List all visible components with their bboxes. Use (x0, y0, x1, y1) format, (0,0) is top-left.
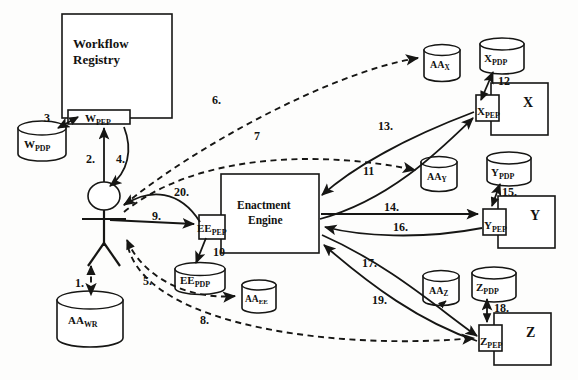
label-workflow-registry-line1: Workflow (73, 36, 129, 51)
step-label-1: 1. (75, 276, 84, 290)
step-label-2: 2. (86, 152, 95, 166)
step-label-20: 20. (174, 185, 189, 199)
step-label-7: 7 (254, 129, 260, 143)
step-label-9: 9. (152, 209, 161, 223)
step-label-12: 12 (498, 74, 510, 88)
label-enactment-engine-line2: Engine (248, 214, 283, 227)
step-label-19: 19. (372, 293, 387, 307)
node-user-actor (82, 182, 126, 266)
label-workflow-registry-line2: Registry (73, 52, 120, 67)
step-label-3: 3 (44, 111, 50, 125)
step-label-4: 4. (116, 152, 125, 166)
step-label-18: 18. (494, 301, 509, 315)
label-enactment-engine-line1: Enactment (237, 199, 291, 211)
step-label-6: 6. (212, 93, 221, 107)
label-service-x: X (523, 95, 533, 110)
step-label-17: 17. (362, 256, 377, 270)
step-label-16: 16. (393, 220, 408, 234)
step-label-10: 10 (213, 245, 225, 259)
edge-10-ee-pep-to-ee-pdp (196, 238, 206, 263)
step-label-15: 15. (502, 185, 517, 199)
step-label-11: 11 (363, 164, 374, 178)
step-label-5: 5. (143, 274, 152, 288)
step-label-14: 14. (384, 200, 399, 214)
diagram-canvas: Workflow Registry WPEP WPDP AAWR Enactme… (0, 0, 578, 380)
step-label-8: 8. (200, 313, 209, 327)
diagram-svg: Workflow Registry WPEP WPDP AAWR Enactme… (0, 0, 578, 380)
step-label-13: 13. (378, 119, 393, 133)
label-service-z: Z (526, 325, 535, 340)
label-service-y: Y (530, 208, 540, 223)
